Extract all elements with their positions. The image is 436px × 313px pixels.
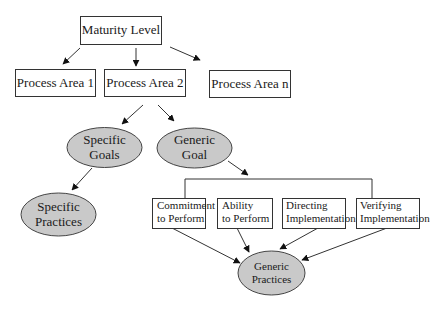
maturity-level-label: Maturity Level — [82, 23, 160, 38]
edge-ml-pan — [170, 47, 200, 60]
ability-line1: Ability — [222, 199, 253, 212]
node-specific-practices: Specific Practices — [21, 193, 96, 236]
edge-verifying-gp — [302, 228, 387, 260]
specific-goals-line1: Specific — [83, 133, 126, 148]
generic-goal-line1: Generic — [174, 133, 215, 148]
specific-practices-line2: Practices — [35, 215, 82, 230]
node-directing-implementation: Directing Implementation — [282, 198, 346, 229]
edge-pa2-gg — [158, 105, 174, 121]
generic-practices-line2: Practices — [252, 273, 292, 286]
edge-ability-gp — [237, 228, 249, 252]
specific-practices-line1: Specific — [37, 200, 80, 215]
node-verifying-implementation: Verifying Implementation — [356, 198, 420, 229]
edge-directing-gp — [280, 228, 318, 249]
generic-practices-line1: Generic — [254, 260, 289, 273]
node-generic-goal: Generic Goal — [157, 128, 232, 168]
process-area-2-label: Process Area 2 — [106, 76, 183, 91]
edge-sg-sp — [72, 168, 92, 190]
edge-ml-pa1 — [63, 48, 80, 64]
node-process-area-2: Process Area 2 — [104, 69, 186, 97]
node-ability-to-perform: Ability to Perform — [217, 198, 273, 229]
commitment-line1: Commitment — [157, 199, 215, 212]
node-commitment-to-perform: Commitment to Perform — [152, 198, 206, 229]
node-process-area-1: Process Area 1 — [15, 69, 96, 97]
edge-commit-gp — [172, 228, 240, 263]
node-maturity-level: Maturity Level — [80, 16, 162, 45]
edge-pa2-sg — [122, 105, 143, 124]
specific-goals-line2: Goals — [89, 148, 119, 163]
commitment-line2: to Perform — [157, 212, 204, 225]
node-generic-practices: Generic Practices — [238, 251, 305, 295]
process-area-1-label: Process Area 1 — [17, 76, 94, 91]
generic-goal-line2: Goal — [182, 148, 207, 163]
directing-line2: Implementation — [286, 212, 356, 225]
node-specific-goals: Specific Goals — [67, 128, 142, 168]
node-process-area-n: Process Area n — [209, 70, 291, 98]
verifying-line2: Implementation — [360, 212, 430, 225]
verifying-line1: Verifying — [360, 199, 402, 212]
directing-line1: Directing — [286, 199, 328, 212]
ability-line2: to Perform — [222, 212, 269, 225]
common-features-bracket — [185, 179, 372, 198]
process-area-n-label: Process Area n — [211, 77, 288, 92]
